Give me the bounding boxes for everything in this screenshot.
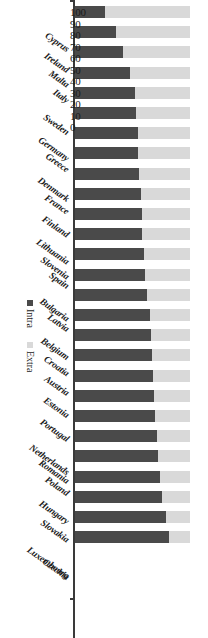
bar-romania: [75, 430, 208, 442]
tick-label: 60: [70, 52, 80, 64]
legend-label: Intra: [25, 309, 36, 328]
bar-segment-extra: [139, 168, 190, 180]
bar-segment-intra: [75, 87, 135, 99]
bar-malta: [75, 46, 208, 58]
bar-group: [75, 0, 208, 638]
bar-segment-extra: [145, 269, 190, 281]
bar-segment-intra: [75, 188, 141, 200]
legend-swatch-intra: [28, 300, 34, 306]
tick-label: 10: [70, 110, 80, 122]
bar-latvia: [75, 289, 208, 301]
bar-segment-extra: [135, 87, 190, 99]
bar-segment-extra: [144, 248, 190, 260]
bar-italy: [75, 67, 208, 79]
bar-segment-extra: [158, 450, 190, 462]
tick-label: 30: [70, 87, 80, 99]
bar-netherlands: [75, 410, 208, 422]
bar-slovenia: [75, 228, 208, 240]
bar-segment-extra: [136, 107, 190, 119]
bar-belgium: [75, 309, 208, 321]
bar-segment-extra: [156, 410, 191, 422]
bar-segment-intra: [75, 107, 136, 119]
bar-finland: [75, 188, 208, 200]
bar-bulgaria: [75, 269, 208, 281]
bar-germany: [75, 107, 208, 119]
tick-label: 100: [70, 6, 86, 18]
bar-segment-extra: [123, 46, 190, 58]
bar-segment-extra: [150, 309, 190, 321]
tick-label: 70: [70, 41, 80, 53]
bar-segment-extra: [162, 491, 190, 503]
bar-segment-intra: [75, 228, 142, 240]
bar-france: [75, 168, 208, 180]
bar-segment-extra: [169, 531, 190, 543]
bar-segment-intra: [75, 26, 116, 38]
bar-segment-intra: [75, 289, 147, 301]
bar-segment-extra: [130, 67, 190, 79]
axis-cap-start: [70, 0, 75, 2]
tick-label: 50: [70, 64, 80, 76]
bar-segment-intra: [75, 269, 145, 281]
legend-item-intra: Intra: [25, 300, 36, 328]
bar-segment-intra: [75, 450, 158, 462]
bar-greece: [75, 127, 208, 139]
bar-segment-extra: [141, 188, 190, 200]
bar-austria: [75, 349, 208, 361]
bar-segment-extra: [152, 349, 190, 361]
bar-lithuania: [75, 208, 208, 220]
bar-slovakia: [75, 491, 208, 503]
plot-area: 1009080706050403020100 CyprusIrelandMalt…: [0, 0, 208, 638]
bar-segment-intra: [75, 309, 150, 321]
chart-legend: IntraExtra: [25, 300, 36, 373]
tick-label: 20: [70, 98, 80, 110]
bar-segment-extra: [116, 26, 190, 38]
bar-segment-intra: [75, 511, 166, 523]
bar-segment-intra: [75, 329, 151, 341]
bar-segment-intra: [75, 168, 139, 180]
bar-segment-intra: [75, 248, 144, 260]
bar-segment-intra: [75, 390, 154, 402]
bar-denmark: [75, 147, 208, 159]
bar-segment-intra: [75, 147, 138, 159]
bar-segment-intra: [75, 127, 138, 139]
bar-segment-intra: [75, 491, 162, 503]
bar-estonia: [75, 370, 208, 382]
bar-segment-intra: [75, 471, 160, 483]
bar-croatia: [75, 329, 208, 341]
bar-segment-intra: [75, 531, 169, 543]
bar-segment-intra: [75, 67, 130, 79]
bar-segment-extra: [138, 127, 190, 139]
bar-segment-intra: [75, 430, 157, 442]
bar-czechia: [75, 531, 208, 543]
bar-segment-extra: [153, 370, 190, 382]
tick-label: 40: [70, 75, 80, 87]
legend-label: Extra: [25, 351, 36, 373]
bar-spain: [75, 248, 208, 260]
bar-hungary: [75, 471, 208, 483]
axis-cap-end: [70, 598, 75, 600]
bar-segment-extra: [142, 208, 190, 220]
bar-segment-intra: [75, 370, 153, 382]
bar-segment-intra: [75, 410, 156, 422]
bar-segment-extra: [160, 471, 190, 483]
bar-segment-extra: [166, 511, 190, 523]
bar-segment-intra: [75, 46, 123, 58]
bar-segment-intra: [75, 349, 152, 361]
chart-canvas: 1009080706050403020100 CyprusIrelandMalt…: [0, 0, 208, 638]
bar-segment-extra: [105, 6, 190, 18]
bar-poland: [75, 450, 208, 462]
bar-segment-extra: [138, 147, 190, 159]
tick-label: 80: [70, 29, 80, 41]
legend-item-extra: Extra: [25, 342, 36, 373]
legend-swatch-extra: [28, 342, 34, 348]
bar-segment-extra: [151, 329, 190, 341]
bar-segment-extra: [147, 289, 190, 301]
bar-portugal: [75, 390, 208, 402]
bar-segment-extra: [142, 228, 190, 240]
bar-sweden: [75, 87, 208, 99]
bar-cyprus: [75, 6, 208, 18]
bar-segment-intra: [75, 208, 142, 220]
tick-label: 0: [70, 121, 75, 133]
bar-ireland: [75, 26, 208, 38]
bar-luxembourg: [75, 511, 208, 523]
